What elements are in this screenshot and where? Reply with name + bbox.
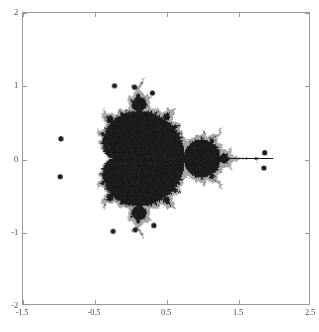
y-tick-right-4 [305,13,309,14]
y-tick-label-0: -2 [11,300,18,310]
y-tick-1 [23,233,27,234]
y-tick-4 [23,13,27,14]
x-tick-top-2 [167,13,168,17]
y-tick-right-2 [305,160,309,161]
y-tick-2 [23,160,27,161]
x-tick-top-3 [239,13,240,17]
plot-area [22,12,310,305]
x-tick-1 [95,300,96,304]
y-tick-label-1: -1 [11,227,18,237]
x-tick-label-1: -0.5 [88,307,101,317]
fractal-plot-canvas [23,13,309,304]
x-tick-3 [239,300,240,304]
y-tick-label-4: 2 [14,7,18,17]
x-tick-label-4: 2.5 [305,307,315,317]
y-tick-right-1 [305,233,309,234]
x-tick-0 [23,300,24,304]
x-tick-top-1 [95,13,96,17]
y-tick-right-3 [305,86,309,87]
x-tick-label-2: 0.5 [161,307,171,317]
x-tick-label-3: 1.5 [233,307,243,317]
y-tick-label-3: 1 [14,80,18,90]
y-tick-3 [23,86,27,87]
y-tick-label-2: 0 [14,154,18,164]
x-tick-2 [167,300,168,304]
fractal-figure: -1.5-0.50.51.52.5 -2-1012 [0,0,319,332]
